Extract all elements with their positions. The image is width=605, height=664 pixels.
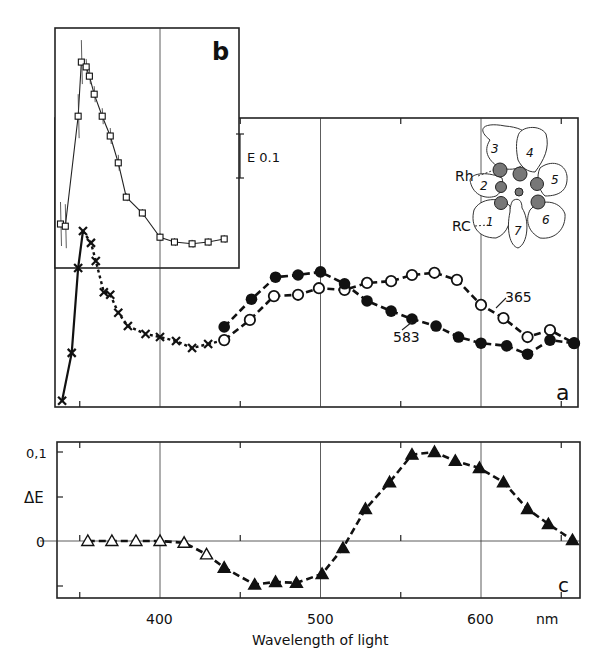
cell-5-label: 5	[551, 173, 559, 187]
filled-circle-marker-icon	[568, 337, 580, 349]
open-circle-marker-icon	[407, 270, 417, 280]
rhabdomere-icon	[531, 178, 544, 191]
open-circle-marker-icon	[452, 275, 462, 285]
x-axis-labels: 400 500 600 nm Wavelength of light	[146, 611, 559, 648]
filled-circle-marker-icon	[453, 331, 465, 343]
filled-circle-marker-icon	[430, 320, 442, 332]
square-marker-icon	[205, 239, 211, 245]
open-circle-marker-icon	[498, 313, 508, 323]
xtick-400: 400	[146, 611, 173, 627]
cell-6-label: 6	[542, 213, 550, 227]
square-marker-icon	[221, 236, 227, 242]
square-marker-icon	[107, 133, 113, 139]
filled-circle-marker-icon	[270, 271, 282, 283]
square-marker-icon	[123, 194, 129, 200]
ylabel-delta-e: ΔE	[24, 489, 44, 507]
series-label-365: 365	[505, 289, 532, 305]
ytick-label-0: 0	[36, 534, 45, 550]
rc-label: RC	[452, 218, 471, 234]
square-marker-icon	[75, 113, 81, 119]
open-circle-marker-icon	[269, 291, 279, 301]
xtick-500: 500	[307, 611, 334, 627]
open-circle-marker-icon	[386, 276, 396, 286]
cell-4-label: 4	[526, 146, 534, 160]
open-circle-marker-icon	[429, 268, 439, 278]
filled-circle-marker-icon	[361, 295, 373, 307]
square-marker-icon	[115, 160, 121, 166]
open-circle-marker-icon	[362, 278, 372, 288]
open-circle-marker-icon	[545, 325, 555, 335]
scale-bar-label: E 0.1	[247, 150, 280, 165]
open-circle-marker-icon	[245, 315, 255, 325]
cell-1-label: 1	[486, 215, 494, 229]
panel-c-label: c	[558, 573, 569, 597]
x-axis-title: Wavelength of light	[252, 632, 389, 648]
rhabdomere-icon	[495, 197, 508, 210]
open-circle-marker-icon	[522, 332, 532, 342]
open-circle-marker-icon	[314, 283, 324, 293]
rhabdomere-icon	[515, 188, 523, 196]
square-marker-icon	[91, 91, 97, 97]
filled-circle-marker-icon	[315, 266, 327, 278]
square-marker-icon	[189, 241, 195, 247]
square-marker-icon	[83, 64, 89, 70]
rhabdomere-icon	[531, 195, 545, 209]
panel-c: c 0,1 ΔE 0	[24, 442, 580, 598]
rhabdomere-icon	[513, 167, 527, 181]
filled-circle-marker-icon	[218, 321, 230, 333]
x-unit-label: nm	[536, 611, 559, 627]
cell-2-label: 2	[480, 179, 488, 193]
rhabdomere-icon	[496, 182, 507, 193]
square-marker-icon	[139, 210, 145, 216]
panel-a-label: a	[556, 380, 569, 405]
filled-circle-marker-icon	[522, 348, 534, 360]
figure: a b E 0.1 365 583	[0, 0, 605, 664]
open-circle-marker-icon	[219, 335, 229, 345]
filled-circle-marker-icon	[339, 278, 351, 290]
filled-circle-marker-icon	[292, 269, 304, 281]
filled-circle-marker-icon	[475, 337, 487, 349]
xtick-600: 600	[467, 611, 494, 627]
square-marker-icon	[86, 73, 92, 79]
open-circle-marker-icon	[293, 290, 303, 300]
square-marker-icon	[157, 234, 163, 240]
rhabdomere-icon	[493, 163, 507, 177]
square-marker-icon	[99, 113, 105, 119]
series-label-583: 583	[393, 329, 420, 345]
square-marker-icon	[171, 239, 177, 245]
square-marker-icon	[62, 223, 68, 229]
cell-7-label: 7	[514, 224, 522, 238]
filled-circle-marker-icon	[406, 313, 418, 325]
filled-circle-marker-icon	[246, 293, 258, 305]
filled-circle-marker-icon	[385, 305, 397, 317]
open-circle-marker-icon	[476, 300, 486, 310]
panel-b-label: b	[212, 38, 229, 66]
rh-label: Rh	[455, 168, 474, 184]
cell-3-label: 3	[491, 142, 499, 156]
filled-circle-marker-icon	[501, 340, 513, 352]
ytick-label-0-1: 0,1	[26, 446, 47, 461]
filled-circle-marker-icon	[544, 334, 556, 346]
